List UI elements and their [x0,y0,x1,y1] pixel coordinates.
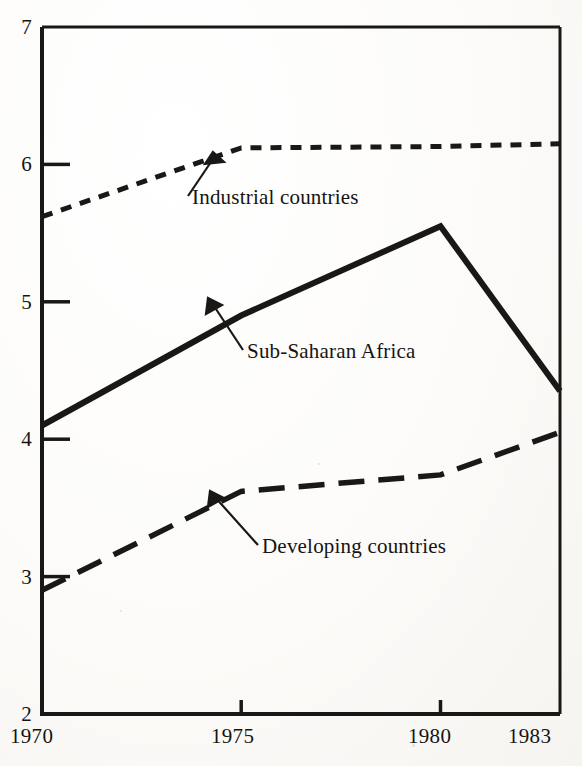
series-line-sub-saharan-africa [42,226,560,425]
y-tick-label-4: 4 [8,429,32,450]
y-tick-label-2: 2 [8,704,32,725]
x-tick-label-1970: 1970 [10,726,53,747]
y-tick-label-6: 6 [8,154,32,175]
scan-speck [120,610,122,612]
scan-speck [318,463,320,465]
x-tick-label-1983: 1983 [508,726,551,747]
series-annotation-developing-countries: Developing countries [262,536,446,557]
y-tick-label-3: 3 [8,567,32,588]
series-line-developing-countries [42,432,560,590]
series-annotation-sub-saharan-africa: Sub-Saharan Africa [247,341,416,362]
y-tick-label-7: 7 [8,17,32,38]
x-axis-ticks [241,700,440,714]
x-tick-label-1975: 1975 [211,726,254,747]
line-chart [0,0,582,766]
y-tick-label-5: 5 [8,292,32,313]
scan-speck [412,744,415,747]
y-axis-ticks [42,164,70,576]
series-annotation-industrial-countries: Industrial countries [192,187,359,208]
